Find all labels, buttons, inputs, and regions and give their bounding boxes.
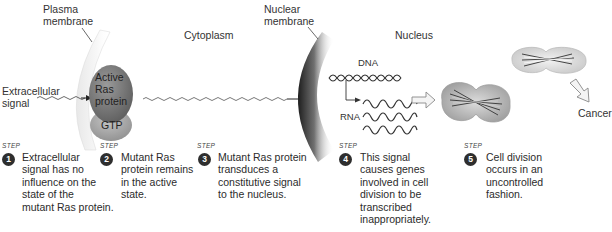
step-description: Cell division occurs in an uncontrolled …	[486, 151, 543, 201]
step-tag: STEP	[464, 142, 482, 149]
step-description: Mutant Ras protein transduces a constitu…	[218, 151, 307, 201]
cytoplasm-label: Cytoplasm	[184, 29, 234, 41]
step-number-badge: 4	[339, 153, 352, 166]
plasma-membrane-label-line1: Plasma	[43, 3, 93, 15]
gtp-label: GTP	[101, 119, 123, 131]
dna-label: DNA	[358, 57, 378, 69]
step-tag: STEP	[339, 142, 357, 149]
step-description: Mutant Ras protein remains in the active…	[121, 151, 193, 201]
constitutive-signal-wave	[143, 96, 307, 102]
plasma-membrane-label: Plasma membrane	[43, 3, 93, 27]
protein-label-line1: Active	[95, 71, 127, 83]
hollow-arrow-icon	[412, 92, 435, 108]
protein-label-line2: Ras	[95, 83, 127, 95]
step-tag: STEP	[100, 142, 118, 149]
transcription-arrow	[346, 80, 361, 103]
step-description: This signal causes genes involved in cel…	[360, 151, 431, 225]
step-tag: STEP	[197, 142, 215, 149]
rna-label: RNA	[340, 111, 360, 123]
dividing-cell-2	[512, 47, 586, 73]
extracellular-label-line2: signal	[2, 97, 60, 109]
nuclear-membrane-label-line2: membrane	[264, 15, 314, 27]
dna-helix	[329, 75, 401, 81]
nuclear-membrane-label: Nuclear membrane	[264, 3, 314, 27]
step-tag: STEP	[2, 142, 20, 149]
nuclear-membrane	[298, 27, 334, 162]
plasma-membrane-pointer	[82, 28, 92, 42]
dividing-cell-1	[442, 83, 510, 122]
extracellular-signal-label: Extracellular signal	[2, 85, 60, 109]
cancer-label: Cancer	[578, 107, 612, 119]
nuclear-membrane-pointer	[308, 27, 318, 39]
protein-label-line3: protein	[95, 95, 127, 107]
plasma-membrane-label-line2: membrane	[43, 15, 93, 27]
step-number-badge: 3	[198, 153, 211, 166]
nucleus-label: Nucleus	[395, 29, 433, 41]
step-number-badge: 1	[2, 153, 15, 166]
extracellular-label-line1: Extracellular	[2, 85, 60, 97]
hollow-arrow-icon	[570, 79, 589, 102]
step-number-badge: 5	[464, 153, 477, 166]
active-ras-protein-label: Active Ras protein	[95, 71, 127, 107]
nuclear-membrane-label-line1: Nuclear	[264, 3, 314, 15]
rna-strands	[363, 100, 417, 134]
step-number-badge: 2	[100, 153, 113, 166]
